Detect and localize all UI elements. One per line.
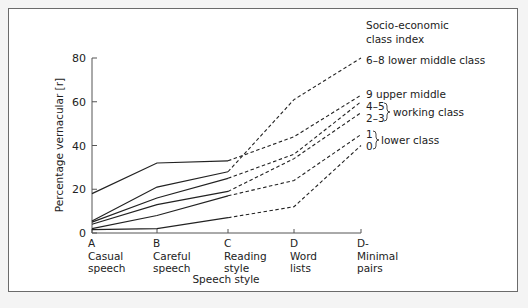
- label-upper-middle: 9 upper middle: [366, 88, 446, 100]
- x-tick-label: Minimal: [357, 250, 398, 262]
- x-tick-label: D-: [357, 237, 369, 249]
- x-ticks: ACasualspeechBCarefulspeechCReadingstyle…: [88, 229, 398, 274]
- label-index-2-3: 2–3: [366, 112, 385, 124]
- x-tick-label: Careful: [153, 250, 191, 262]
- y-tick-label: 40: [72, 140, 86, 153]
- series-line-solid: [92, 218, 228, 230]
- y-ticks: 020406080: [72, 52, 97, 240]
- x-tick-label: Reading: [224, 250, 267, 262]
- series-line-dashed: [228, 135, 361, 196]
- y-tick-label: 60: [72, 96, 86, 109]
- series-line-solid: [92, 161, 228, 194]
- x-tick-label: lists: [290, 262, 311, 274]
- x-tick-label: Word: [290, 250, 317, 262]
- series-lines: [92, 58, 361, 230]
- x-tick-label: C: [224, 237, 231, 249]
- series-line-dashed: [228, 58, 361, 172]
- x-tick-label: D: [290, 237, 298, 249]
- x-tick-label: Casual: [88, 250, 123, 262]
- series-line-solid: [92, 178, 228, 222]
- y-tick-label: 20: [72, 183, 86, 196]
- x-axis-label: Speech style: [192, 273, 259, 285]
- series-line-dashed: [228, 102, 361, 179]
- series-line-solid: [92, 172, 228, 221]
- series-line-dashed: [228, 146, 361, 218]
- x-tick-label: speech: [153, 262, 190, 274]
- y-tick-label: 0: [79, 227, 86, 240]
- label-lower-class: lower class: [381, 134, 439, 146]
- x-tick-label: pairs: [357, 262, 383, 274]
- label-working-class: working class: [393, 106, 464, 118]
- brace-working-class: [384, 103, 390, 121]
- legend-title-line2: class index: [366, 33, 424, 45]
- series-line-solid: [92, 196, 228, 229]
- label-index-4-5: 4–5: [366, 100, 385, 112]
- y-axis-label: Percentage vernacular [r]: [53, 78, 65, 212]
- x-tick-label: speech: [88, 262, 125, 274]
- series-line-dashed: [228, 95, 361, 161]
- x-tick-label: A: [88, 237, 96, 249]
- line-chart: 020406080 ACasualspeechBCarefulspeechCRe…: [0, 0, 528, 308]
- x-tick-label: B: [153, 237, 160, 249]
- brace-lower-class: [373, 131, 379, 149]
- label-index-1: 1: [366, 128, 373, 140]
- label-lower-middle-class: 6–8 lower middle class: [366, 54, 485, 66]
- series-line-solid: [92, 191, 228, 224]
- label-index-0: 0: [366, 140, 373, 152]
- legend-title-line1: Socio-economic: [366, 19, 449, 31]
- y-tick-label: 80: [72, 52, 86, 65]
